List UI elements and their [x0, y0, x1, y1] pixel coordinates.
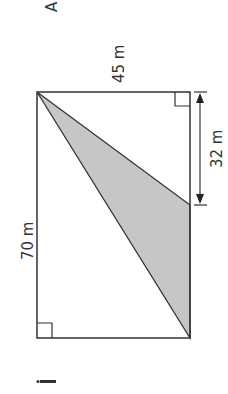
right-angle-top-right — [175, 92, 190, 106]
arrow-down-icon — [196, 194, 204, 204]
label-32m: 32 m — [208, 130, 226, 168]
question-marker — [40, 380, 56, 383]
right-angle-bottom-left — [37, 323, 52, 338]
label-45m: 45 m — [110, 45, 128, 83]
label-corner-a: A — [43, 1, 61, 12]
shaded-triangle — [37, 92, 190, 338]
geometry-diagram: 45 m 70 m 32 m A — [0, 0, 228, 394]
arrow-up-icon — [196, 93, 204, 103]
label-70m: 70 m — [19, 222, 37, 260]
